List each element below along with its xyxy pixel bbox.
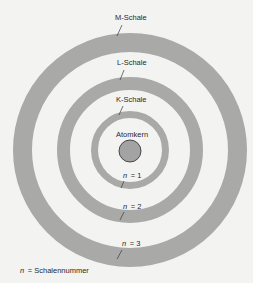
diagram-canvas: M-Schale L-Schale K-Schale Atomkern n = … — [0, 0, 253, 283]
n1-value: = 1 — [131, 171, 142, 180]
legend-text: = Schalennummer — [28, 266, 90, 275]
n1-label: n = 1 — [123, 171, 141, 180]
legend: n = Schalennummer — [20, 266, 89, 275]
n3-label: n = 3 — [122, 239, 140, 248]
n2-label: n = 2 — [123, 202, 141, 211]
n2-value: = 2 — [131, 202, 142, 211]
n3-value: = 3 — [130, 239, 141, 248]
nucleus — [119, 140, 141, 162]
legend-var: n — [20, 266, 24, 275]
l-shell-label: L-Schale — [117, 58, 147, 67]
n2-var: n — [123, 202, 127, 211]
m-shell-label: M-Schale — [115, 13, 147, 22]
k-shell-label: K-Schale — [116, 95, 146, 104]
n1-var: n — [123, 171, 127, 180]
n3-var: n — [122, 239, 126, 248]
nucleus-label: Atomkern — [116, 130, 148, 139]
atom-shell-diagram: M-Schale L-Schale K-Schale Atomkern n = … — [0, 0, 253, 283]
